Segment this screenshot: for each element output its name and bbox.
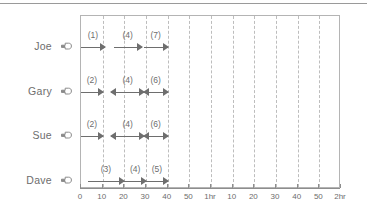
axis-tick-label: 2hr <box>334 192 346 201</box>
axis-tick <box>297 184 298 188</box>
gridline <box>189 16 190 187</box>
timeline-span: (2) <box>81 84 103 96</box>
axis-tick <box>275 184 276 188</box>
timeline-span: (4) <box>124 173 146 185</box>
timeline-span: (3) <box>88 173 125 185</box>
axis-tick <box>318 184 319 188</box>
axis-tick <box>232 184 233 188</box>
arrow-head-right-icon <box>100 43 106 51</box>
gridline <box>276 16 277 187</box>
timeline-span: (5) <box>146 173 168 185</box>
arrow-head-right-icon <box>163 177 169 185</box>
axis-tick <box>123 184 124 188</box>
axis-tick-label: 50 <box>314 192 323 201</box>
axis-tick <box>340 184 341 188</box>
pointing-hand-icon <box>61 131 72 140</box>
axis-tick-label: 20 <box>119 192 128 201</box>
axis-tick-label: 30 <box>271 192 280 201</box>
row-label-name: Sue <box>32 129 52 141</box>
axis-tick-label: 0 <box>78 192 82 201</box>
span-label: (7) <box>151 30 161 40</box>
arrow-head-right-icon <box>98 88 104 96</box>
gridline <box>254 16 255 187</box>
axis-tick-label: 30 <box>141 192 150 201</box>
pointing-hand-icon <box>61 87 72 96</box>
span-label: (4) <box>122 30 132 40</box>
span-label: (2) <box>87 119 97 129</box>
gridline <box>168 16 169 187</box>
timeline-plot-inner: (1)(4)(7)(2)(4)(6)(2)(4)(6)(3)(4)(5) <box>81 16 339 187</box>
axis-tick <box>253 184 254 188</box>
span-label: (4) <box>122 75 132 85</box>
axis-tick <box>167 184 168 188</box>
axis-tick <box>102 184 103 188</box>
pointing-hand-icon <box>61 42 72 51</box>
row-label-sue: Sue <box>32 129 72 141</box>
timeline-span: (4) <box>111 84 144 96</box>
axis-tick-label: 10 <box>97 192 106 201</box>
gridline <box>211 16 212 187</box>
arrow-head-left-icon <box>110 88 116 96</box>
span-label: (2) <box>87 75 97 85</box>
span-label: (5) <box>152 164 162 174</box>
top-divider-rule <box>0 3 367 4</box>
pointing-hand-icon <box>61 176 72 185</box>
span-label: (6) <box>151 75 161 85</box>
arrow-head-left-icon <box>110 132 116 140</box>
axis-tick-label: 20 <box>249 192 258 201</box>
row-label-name: Gary <box>28 85 52 97</box>
timeline-span: (6) <box>144 128 168 140</box>
gridline <box>298 16 299 187</box>
row-label-name: Joe <box>34 40 52 52</box>
x-axis: 010203040501hr10203040502hr <box>80 188 340 189</box>
arrow-head-left-icon <box>143 132 149 140</box>
row-label-gary: Gary <box>28 85 72 97</box>
timeline-span: (4) <box>114 39 142 51</box>
span-label: (4) <box>130 164 140 174</box>
span-label: (4) <box>122 119 132 129</box>
axis-tick-label: 1hr <box>204 192 216 201</box>
timeline-span: (7) <box>144 39 168 51</box>
row-label-name: Dave <box>26 174 52 186</box>
timeline-plot-area: (1)(4)(7)(2)(4)(6)(2)(4)(6)(3)(4)(5) <box>80 15 340 188</box>
timeline-span: (4) <box>111 128 144 140</box>
axis-tick-label: 10 <box>227 192 236 201</box>
arrow-head-right-icon <box>98 132 104 140</box>
axis-tick <box>145 184 146 188</box>
row-label-dave: Dave <box>26 174 72 186</box>
row-label-joe: Joe <box>34 40 72 52</box>
row-label-column: JoeGarySueDave <box>0 15 76 188</box>
timeline-span: (2) <box>81 128 103 140</box>
gridline <box>319 16 320 187</box>
axis-tick-label: 40 <box>162 192 171 201</box>
axis-tick <box>210 184 211 188</box>
arrow-head-right-icon <box>137 43 143 51</box>
arrow-head-right-icon <box>163 88 169 96</box>
timeline-span: (1) <box>81 39 105 51</box>
axis-tick-label: 50 <box>184 192 193 201</box>
axis-tick <box>188 184 189 188</box>
arrow-head-left-icon <box>143 88 149 96</box>
span-label: (6) <box>151 119 161 129</box>
arrow-head-right-icon <box>163 43 169 51</box>
arrow-head-right-icon <box>163 132 169 140</box>
span-label: (1) <box>88 30 98 40</box>
axis-tick-label: 40 <box>292 192 301 201</box>
axis-tick <box>80 184 81 188</box>
span-label: (3) <box>101 164 111 174</box>
gridline <box>233 16 234 187</box>
timeline-span: (6) <box>144 84 168 96</box>
